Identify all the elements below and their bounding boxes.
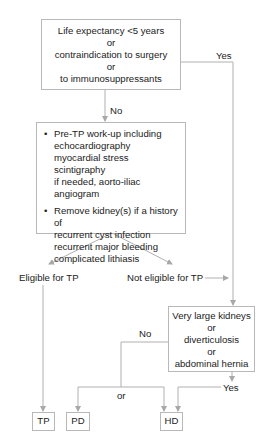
condition-line: or: [169, 346, 254, 358]
decision-line: to immunosuppressants: [42, 73, 180, 85]
decision-line: contraindication to surgery: [42, 49, 180, 61]
decision-line: or: [42, 37, 180, 49]
anatomic-condition-box: Very large kidneys or diverticulosis or …: [168, 306, 255, 372]
outcome-pd-box: PD: [66, 412, 90, 431]
condition-line: abdominal hernia: [169, 358, 254, 370]
bullet-icon: •: [44, 205, 47, 217]
workup-line: Remove kidney(s) if a history of: [54, 205, 179, 229]
workup-line: recurrent major bleeding: [54, 241, 179, 253]
workup-line: recurrent cyst infection: [54, 229, 179, 241]
workup-line: myocardial stress scintigraphy: [54, 152, 179, 176]
condition-line: Very large kidneys: [169, 310, 254, 322]
no-label-right: No: [139, 328, 151, 340]
workup-item: • Remove kidney(s) if a history of recur…: [43, 205, 179, 265]
yes-label-top: Yes: [216, 50, 232, 62]
workup-line: Pre-TP work-up including: [54, 128, 179, 140]
not-eligible-for-tp-label: Not eligible for TP: [127, 272, 203, 284]
outcome-hd-box: HD: [160, 412, 183, 431]
condition-line: diverticulosis: [169, 334, 254, 346]
or-label: or: [117, 390, 126, 402]
decision-line: or: [42, 61, 180, 73]
workup-item: • Pre-TP work-up including echocardiogra…: [43, 128, 179, 200]
bullet-icon: •: [44, 128, 47, 140]
condition-line: or: [169, 322, 254, 334]
eligible-for-tp-label: Eligible for TP: [19, 272, 79, 284]
workup-line: complicated lithiasis: [54, 253, 179, 265]
outcome-tp-box: TP: [32, 412, 55, 431]
no-label-top: No: [110, 105, 122, 117]
workup-line: echocardiography: [54, 140, 179, 152]
pre-tp-workup-box: • Pre-TP work-up including echocardiogra…: [36, 122, 186, 234]
decision-line: Life expectancy <5 years: [42, 25, 180, 37]
life-expectancy-decision-box: Life expectancy <5 years or contraindica…: [41, 19, 181, 90]
yes-label-bottom: Yes: [223, 382, 239, 394]
workup-line: if needed, aorto-iliac angiogram: [54, 176, 179, 200]
